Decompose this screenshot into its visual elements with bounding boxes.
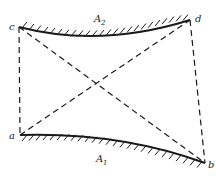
point-label-b: b bbox=[208, 159, 214, 170]
point-label-c: c bbox=[9, 21, 15, 32]
diagram-canvas: c d a b A 2 A 1 bbox=[0, 0, 216, 178]
surface-label-a2-sub: 2 bbox=[100, 19, 106, 27]
surface-label-a2: A 2 bbox=[93, 13, 106, 27]
surface-label-a1-main: A bbox=[95, 153, 103, 164]
dashed-line-c-b bbox=[19, 27, 205, 163]
point-label-d: d bbox=[195, 13, 201, 24]
dashed-lines bbox=[19, 20, 205, 163]
surface-label-a2-main: A bbox=[93, 13, 101, 24]
point-label-a: a bbox=[9, 130, 15, 141]
dashed-line-a-d bbox=[20, 20, 190, 135]
surface-label-a1-sub: 1 bbox=[103, 159, 107, 167]
dashed-line-c-a bbox=[19, 27, 20, 135]
lower-surface-a1 bbox=[20, 134, 205, 168]
surface-label-a1: A 1 bbox=[95, 153, 107, 167]
dashed-line-d-b bbox=[190, 20, 205, 163]
